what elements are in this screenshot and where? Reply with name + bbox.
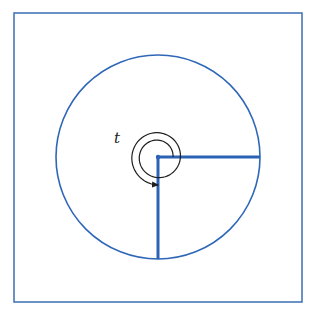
origin-point [156, 155, 160, 159]
angle-diagram: t [0, 0, 316, 332]
angle-spiral-arrow-icon [132, 133, 181, 185]
angle-label-t: t [114, 129, 121, 147]
